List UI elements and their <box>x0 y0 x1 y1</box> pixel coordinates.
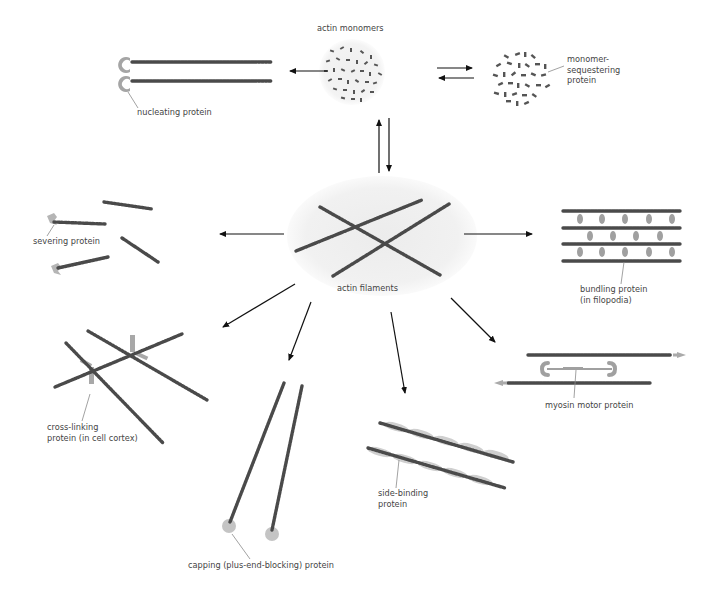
actin-monomer-pool <box>319 39 385 105</box>
cross-linking-protein-label: cross-linking protein (in cell cortex) <box>47 422 138 443</box>
capping-protein-label: capping (plus-end-blocking) protein <box>188 560 334 571</box>
actin-binding-protein-diagram: actin monomers monomer- sequestering pro… <box>0 0 712 601</box>
label-line: cross-linking <box>47 422 138 433</box>
bundling-protein-label: bundling protein (in filopodia) <box>580 284 647 305</box>
actin-filament-network <box>287 176 477 296</box>
label-line: sequestering <box>567 65 620 76</box>
monomer-sequestering-protein-label: monomer- sequestering protein <box>567 54 620 86</box>
sequestered-monomer-cluster <box>493 52 564 106</box>
nucleated-filaments <box>118 57 272 108</box>
side-bound-filaments <box>366 420 513 488</box>
myosin-sliding-filaments <box>494 352 686 398</box>
bundled-filaments <box>563 211 680 284</box>
label-line: side-binding <box>378 488 428 499</box>
equilibrium-arrows-horizontal <box>437 68 474 78</box>
myosin-motor-protein-label: myosin motor protein <box>545 400 633 411</box>
severing-protein-label: severing protein <box>33 236 100 247</box>
label-line: bundling protein <box>580 284 647 295</box>
actin-filaments-label: actin filaments <box>337 283 398 294</box>
side-binding-protein-label: side-binding protein <box>378 488 428 509</box>
label-line: (in filopodia) <box>580 295 647 306</box>
label-line: protein <box>378 499 428 510</box>
nucleating-protein-label: nucleating protein <box>137 107 212 118</box>
actin-monomers-label: actin monomers <box>317 23 384 34</box>
label-line: protein <box>567 75 620 86</box>
capped-filaments <box>222 383 302 559</box>
equilibrium-arrows-vertical <box>379 118 389 173</box>
label-line: monomer- <box>567 54 620 65</box>
label-line: protein (in cell cortex) <box>47 433 138 444</box>
